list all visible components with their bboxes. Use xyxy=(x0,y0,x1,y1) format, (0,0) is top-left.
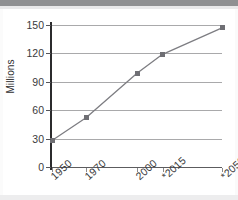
y-axis-tick xyxy=(46,82,51,83)
y-axis-tick xyxy=(46,110,51,111)
data-point xyxy=(135,71,140,76)
y-axis-tick xyxy=(46,25,51,26)
data-point xyxy=(84,115,89,120)
data-point xyxy=(160,52,165,57)
y-axis-tick xyxy=(46,167,51,168)
y-axis-tick xyxy=(46,139,51,140)
series-line xyxy=(0,9,238,195)
line-chart: Millions 1501209060300 195019702000*2015… xyxy=(0,9,238,195)
chart-screenshot: Millions 1501209060300 195019702000*2015… xyxy=(0,0,238,200)
y-axis-tick xyxy=(46,53,51,54)
scan-band-bottom xyxy=(0,195,238,200)
data-point xyxy=(220,25,225,30)
